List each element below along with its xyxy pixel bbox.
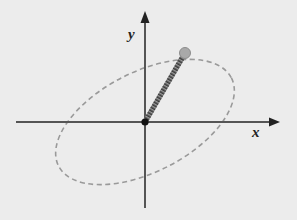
x-axis-label: x <box>251 124 260 140</box>
y-axis-arrow-icon <box>141 11 150 23</box>
x-axis-arrow-icon <box>269 118 280 127</box>
spring <box>143 52 187 123</box>
y-axis-label: y <box>126 26 135 42</box>
y-axis <box>141 11 150 208</box>
orbit-diagram: y x <box>0 0 297 220</box>
origin-point <box>141 118 148 125</box>
mass-ball <box>180 48 191 59</box>
